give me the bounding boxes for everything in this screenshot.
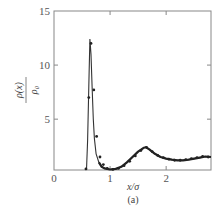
density-profile-chart: 01251015 ρ(x) ρ₀ x/σ (a) bbox=[0, 0, 221, 211]
x-tick-label: 1 bbox=[107, 172, 113, 184]
x-tick-label: 2 bbox=[163, 172, 169, 184]
figure-caption: (a) bbox=[127, 194, 138, 206]
simulation-markers bbox=[85, 42, 210, 171]
data-point-marker bbox=[90, 42, 93, 45]
data-point-marker bbox=[145, 146, 148, 149]
data-point-marker bbox=[102, 163, 105, 166]
data-point-marker bbox=[156, 154, 159, 157]
axis-tick-labels: 01251015 bbox=[39, 5, 169, 184]
data-point-marker bbox=[162, 156, 165, 159]
y-axis-label: ρ(x) ρ₀ bbox=[13, 77, 39, 103]
data-point-marker bbox=[196, 156, 199, 159]
x-tick-label: 0 bbox=[51, 172, 57, 184]
data-point-marker bbox=[117, 167, 120, 170]
data-point-marker bbox=[111, 168, 114, 171]
data-point-marker bbox=[134, 155, 137, 158]
axis-ticks bbox=[54, 11, 211, 170]
data-point-marker bbox=[87, 96, 90, 99]
theory-curve-tail bbox=[99, 147, 211, 169]
data-point-marker bbox=[99, 156, 102, 159]
data-point-marker bbox=[201, 155, 204, 158]
data-point-marker bbox=[128, 160, 131, 163]
x-axis-label: x/σ bbox=[126, 181, 140, 192]
data-point-marker bbox=[179, 159, 182, 162]
data-point-marker bbox=[92, 89, 95, 92]
data-point-marker bbox=[190, 157, 193, 160]
y-axis-label-denominator: ρ₀ bbox=[28, 85, 39, 95]
data-point-marker bbox=[207, 156, 210, 159]
data-point-marker bbox=[85, 168, 88, 171]
y-axis-label-numerator: ρ(x) bbox=[13, 81, 25, 99]
plot-area: 01251015 bbox=[39, 5, 211, 184]
y-tick-label: 10 bbox=[39, 59, 51, 71]
data-point-marker bbox=[151, 150, 154, 153]
data-point-marker bbox=[140, 149, 143, 152]
data-point-marker bbox=[184, 158, 187, 161]
data-point-marker bbox=[173, 159, 176, 162]
y-tick-label: 5 bbox=[45, 113, 51, 125]
data-point-marker bbox=[123, 164, 126, 167]
plot-frame bbox=[54, 11, 211, 170]
data-point-marker bbox=[106, 167, 109, 170]
y-tick-label: 15 bbox=[39, 5, 51, 17]
data-point-marker bbox=[168, 158, 171, 161]
data-point-marker bbox=[95, 135, 98, 138]
